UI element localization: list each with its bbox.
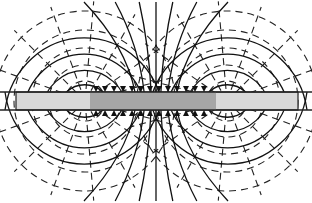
arrowhead-icon (165, 110, 171, 116)
arrowhead-icon (165, 86, 171, 92)
arrowhead-icon (201, 86, 207, 92)
arrowhead-icon (201, 110, 207, 116)
bar-inner (90, 92, 216, 110)
arrowhead-icon (147, 110, 153, 116)
arrowhead-icon (147, 86, 153, 92)
arrowhead-icon (111, 86, 117, 92)
field-line-diagram (0, 0, 312, 203)
arrowhead-icon (111, 110, 117, 116)
bar-magnet (0, 92, 312, 110)
